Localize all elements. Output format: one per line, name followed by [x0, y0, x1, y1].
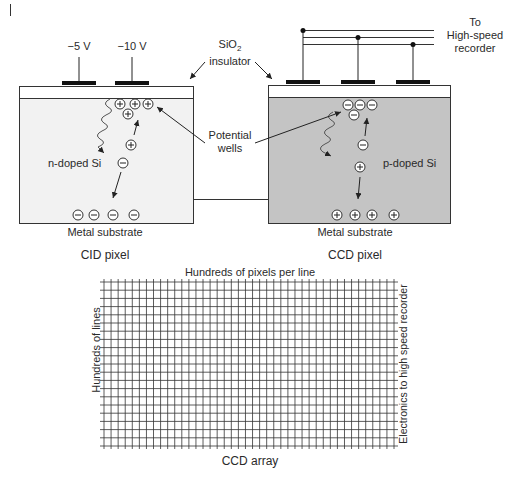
ccd-junction-dot-3: [411, 42, 416, 47]
ccd-insulator-layer: [269, 86, 451, 98]
cid-voltage-2: −10 V: [114, 40, 150, 52]
ccd-array-grid: [100, 279, 398, 449]
ccd-pixel: [269, 28, 451, 224]
ccd-region-label: p-doped Si: [383, 157, 436, 169]
ccd-output-label-line-3: recorder: [455, 42, 496, 54]
insulator-label: SiO2 insulator: [200, 38, 260, 68]
ccd-junction-dot-2: [356, 35, 361, 40]
diagram-canvas: [0, 0, 511, 480]
insulator-label-text: insulator: [209, 55, 251, 67]
array-top-label: Hundreds of pixels per line: [150, 266, 350, 278]
ccd-pixel-title: CCD pixel: [290, 248, 420, 262]
array-bottom-label: CCD array: [150, 454, 350, 468]
insulator-label-subscript: 2: [237, 44, 241, 53]
insulator-label-formula: SiO: [219, 38, 237, 50]
cid-region-label: n-doped Si: [48, 157, 101, 169]
ccd-junction-dot-1: [301, 28, 306, 33]
cid-substrate-label: Metal substrate: [40, 226, 170, 238]
cid-electrode-1: [62, 81, 96, 85]
ccd-output-label-line-1: To: [469, 16, 481, 28]
ccd-substrate-label: Metal substrate: [290, 226, 420, 238]
cid-pixel-title: CID pixel: [40, 248, 170, 262]
array-left-label: Hundreds of lines: [90, 280, 102, 420]
ccd-electrode-2: [341, 80, 375, 84]
array-right-label: Electronics to high speed recorder: [397, 282, 409, 446]
ccd-electrode-3: [396, 80, 430, 84]
wells-label-line-2: wells: [218, 142, 242, 154]
cid-pixel: [20, 57, 194, 224]
potential-wells-label: Potential wells: [200, 129, 260, 155]
wells-label-line-1: Potential: [209, 129, 252, 141]
cid-silicon-body: [20, 87, 194, 224]
cid-insulator-layer: [20, 87, 194, 99]
ccd-output-label-line-2: High-speed: [447, 29, 503, 41]
ccd-electrode-1: [286, 80, 320, 84]
cid-electrode-2: [115, 81, 149, 85]
cid-voltage-1: −5 V: [64, 40, 94, 52]
ccd-output-label: To High-speed recorder: [440, 16, 510, 55]
